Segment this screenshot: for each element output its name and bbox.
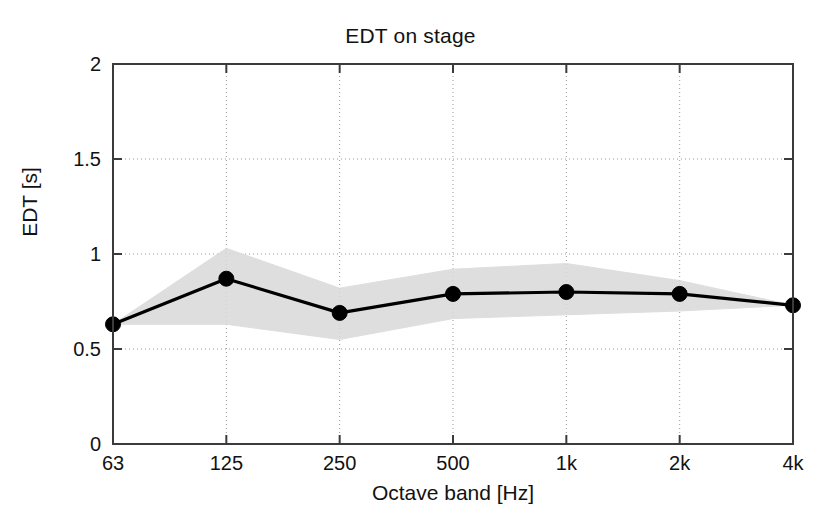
y-tick-label: 2 — [90, 53, 101, 75]
chart-figure: EDT on stage 00.511.52 631252505001k2k4k… — [0, 0, 821, 521]
grid-lines — [113, 64, 793, 444]
x-tick-label: 2k — [669, 452, 691, 474]
y-tick-label: 1.5 — [73, 148, 101, 170]
x-tick-label: 4k — [782, 452, 804, 474]
y-axis-title: EDT [s] — [18, 122, 42, 282]
y-tick-label: 0.5 — [73, 338, 101, 360]
x-tick-label: 125 — [210, 452, 243, 474]
x-tick-label: 1k — [556, 452, 578, 474]
plot-canvas: 00.511.52 631252505001k2k4k — [0, 0, 821, 521]
x-tick-label: 500 — [436, 452, 469, 474]
x-tick-label: 63 — [102, 452, 124, 474]
y-tick-label: 1 — [90, 243, 101, 265]
x-tick-label: 250 — [323, 452, 356, 474]
y-tick-label: 0 — [90, 433, 101, 455]
x-tick-labels: 631252505001k2k4k — [102, 452, 805, 474]
x-axis-title: Octave band [Hz] — [113, 481, 793, 505]
y-tick-labels: 00.511.52 — [73, 53, 101, 455]
